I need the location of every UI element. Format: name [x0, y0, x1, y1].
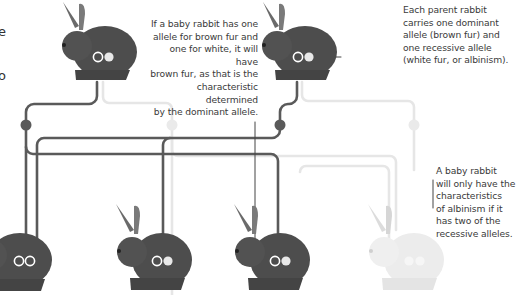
dominant-allele-node: [275, 120, 286, 131]
recessive-allele-dot: [404, 256, 413, 265]
rabbit-icon: [234, 204, 310, 290]
inheritance-diagram: e o: [0, 0, 516, 295]
rabbit-icon: [62, 2, 137, 80]
rabbit-icon: [0, 209, 52, 291]
dominant-allele-node: [21, 120, 32, 131]
rabbit-icon: [368, 204, 444, 290]
recessive-allele-dot: [415, 256, 424, 265]
parent-annotation: Each parent rabbit carries one dominant …: [403, 4, 516, 67]
heterozygous-annotation: If a baby rabbit has one allele for brow…: [150, 18, 258, 119]
offspring-rabbit-1: [0, 205, 60, 295]
albino-annotation: A baby rabbit will only have the charact…: [436, 165, 516, 241]
recessive-allele-dot: [163, 256, 172, 265]
parent-rabbit-1: [55, 0, 145, 86]
rabbit-icon: [262, 2, 337, 80]
recessive-allele-node: [167, 120, 178, 131]
offspring-rabbit-3: [228, 200, 318, 295]
recessive-allele-dot: [104, 52, 113, 61]
recessive-allele-dot: [304, 52, 313, 61]
offspring-rabbit-2: [110, 200, 200, 295]
recessive-allele-dot: [281, 256, 290, 265]
parent-rabbit-2: [255, 0, 345, 86]
recessive-allele-node: [409, 120, 420, 131]
rabbit-icon: [116, 204, 192, 290]
